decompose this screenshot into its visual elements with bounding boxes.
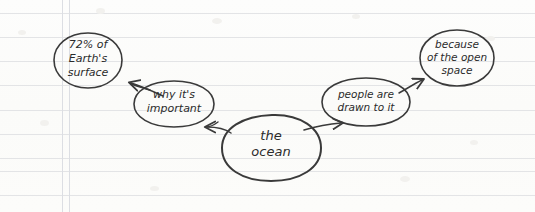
node-people[interactable] (322, 78, 410, 126)
node-fact[interactable] (54, 33, 122, 88)
node-center[interactable] (222, 115, 321, 181)
edge-people-to-space (399, 80, 422, 93)
notebook-page: 72% of Earth's surface why it's importan… (0, 0, 535, 212)
concept-map-diagram (0, 0, 535, 212)
node-space[interactable] (420, 30, 494, 86)
node-why[interactable] (134, 81, 214, 127)
edge-connector-stroke (206, 122, 218, 127)
